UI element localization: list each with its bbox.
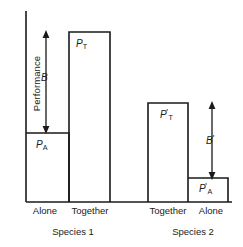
- arrow-label-b-prime-base: B: [206, 135, 213, 146]
- bar-label-pa-subscript: A: [43, 143, 48, 152]
- bar-label-pa-base: P: [36, 139, 43, 150]
- bar-label-pt: PT: [76, 38, 87, 49]
- arrow-label-b-prime: B': [206, 135, 214, 146]
- prime-mark: ': [213, 133, 215, 143]
- tick-label-together-species-1: Together: [64, 205, 116, 216]
- bar-label-pt-base: P: [76, 38, 83, 49]
- y-axis-title: Performance: [31, 24, 42, 144]
- bar-label-pt-prime-subscript: T: [168, 113, 172, 122]
- group-label-species-1: Species 1: [32, 226, 114, 237]
- bar-label-pt-prime: P'T: [160, 109, 173, 120]
- arrow-label-b: B: [41, 72, 48, 83]
- group-label-species-2: Species 2: [152, 226, 234, 237]
- tick-label-alone-species-2: Alone: [190, 205, 232, 216]
- bar-label-pt-subscript: T: [83, 42, 87, 51]
- performance-bar-chart-figure: Performance PA PT P'T P'A B B' Alone Tog…: [0, 0, 243, 247]
- bar-label-pa: PA: [36, 139, 47, 150]
- bar-pt: [69, 32, 110, 202]
- bar-label-pa-prime-subscript: A: [207, 187, 212, 196]
- bar-label-pa-prime: P'A: [199, 183, 212, 194]
- tick-label-alone-species-1: Alone: [22, 205, 68, 216]
- tick-label-together-species-2: Together: [142, 205, 194, 216]
